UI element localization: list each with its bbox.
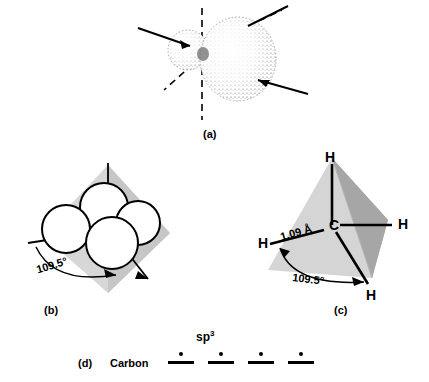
orbital-line <box>208 361 234 364</box>
panel-b-tetrahedral-orbitals <box>20 155 195 305</box>
panel-a-hybrid-orbital <box>130 4 320 124</box>
axis-lower-right-arrowhead <box>135 271 148 279</box>
nucleus-region <box>197 47 209 61</box>
electron-dot <box>259 352 263 356</box>
sp3-lobe-front <box>86 217 138 269</box>
angle-arc-arrow-end <box>352 277 364 286</box>
panel-d-caption: (d) <box>78 358 92 369</box>
panel-c-caption: (c) <box>334 304 347 316</box>
electron-dot <box>299 352 303 356</box>
orbital-line <box>288 361 314 364</box>
atom-label-h-right: H <box>398 217 408 231</box>
sp3-base: sp <box>196 330 210 344</box>
sp3-exponent: 3 <box>210 329 214 338</box>
sp3-orbital-4 <box>288 352 314 364</box>
panel-a-caption: (a) <box>203 128 216 140</box>
atom-label-h-bottom: H <box>366 288 376 302</box>
atom-label-carbon: C <box>329 218 339 232</box>
panel-b-caption: (b) <box>44 304 58 316</box>
panel-a-drawing <box>130 4 320 124</box>
sp3-orbital-1 <box>168 352 194 364</box>
sp3-orbital-3 <box>248 352 274 364</box>
panel-b-drawing <box>20 155 195 305</box>
atom-label-h-top: H <box>325 150 335 164</box>
sp3-hybridization-figure: (a) 109.5° (b) <box>0 0 429 382</box>
sp3-orbital-2 <box>208 352 234 364</box>
sp3-shell-label: sp3 <box>196 330 214 343</box>
electron-dot <box>179 352 183 356</box>
front-lobe <box>200 17 276 101</box>
element-label-carbon: Carbon <box>110 358 149 369</box>
electron-dot <box>219 352 223 356</box>
orbital-line <box>168 361 194 364</box>
solid-upper-right-axis <box>248 6 288 26</box>
atom-label-h-left: H <box>258 236 268 250</box>
sp3-lobe-left <box>42 205 90 253</box>
orbital-line <box>248 361 274 364</box>
